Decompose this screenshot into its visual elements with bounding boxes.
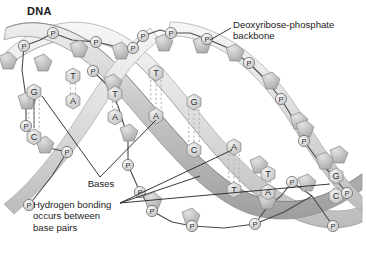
phosphate-group: P (275, 93, 286, 104)
phosphate-letter: P (289, 178, 294, 187)
phosphate-letter: P (330, 222, 335, 231)
base-letter-c: C (31, 132, 38, 142)
dna-diagram-figure: GCTATATAGCATTAGC PPPPPPPPPPPPPPPPPPPPPP … (0, 0, 366, 258)
phosphate-group: P (165, 27, 176, 38)
phosphate-group: P (122, 159, 133, 170)
base-letter-t: T (265, 169, 271, 179)
phosphate-letter: P (204, 35, 209, 44)
phosphate-letter: P (21, 42, 26, 51)
figure-title: DNA (27, 5, 52, 17)
phosphate-letter: P (90, 67, 95, 76)
base-letter-t: T (231, 185, 237, 195)
phosphate-group: P (186, 220, 197, 231)
phosphate-group: P (298, 135, 309, 146)
base-pair: TA (66, 68, 80, 109)
base-letter-a: A (153, 111, 159, 121)
phosphate-letter: P (64, 148, 69, 157)
phosphate-group: P (137, 30, 148, 41)
base-pair: AT (227, 139, 241, 198)
base-letter-t: T (153, 68, 159, 78)
label-backbone: Deoxyribose-phosphate backbone (233, 19, 334, 42)
base-letter-a: A (231, 142, 237, 152)
phosphate-letter: P (26, 201, 31, 210)
phosphate-group: P (90, 36, 101, 47)
phosphate-letter: P (93, 38, 98, 47)
base-letter-g: G (332, 171, 339, 181)
phosphate-letter: P (23, 122, 28, 131)
phosphate-group: P (47, 27, 58, 38)
base-letter-g: G (30, 87, 37, 97)
phosphate-letter: P (301, 137, 306, 146)
phosphate-letter: P (344, 189, 349, 198)
phosphate-group: P (341, 187, 352, 198)
phosphate-group: P (286, 176, 297, 187)
phosphate-group: P (87, 65, 98, 76)
phosphate-letter: P (149, 207, 154, 216)
base-pair: TA (108, 86, 122, 125)
phosphate-group: P (327, 220, 338, 231)
base-letter-t: T (70, 71, 76, 81)
phosphate-group: P (127, 42, 138, 53)
phosphate-letter: P (125, 161, 130, 170)
base-letter-t: T (112, 89, 118, 99)
phosphate-letter: P (252, 220, 257, 229)
phosphate-group: P (146, 205, 157, 216)
phosphate-group: P (61, 146, 72, 157)
phosphate-letter: P (189, 222, 194, 231)
phosphate-letter: P (168, 29, 173, 38)
phosphate-letter: P (50, 29, 55, 38)
phosphate-letter: P (278, 95, 283, 104)
base-letter-g: G (190, 97, 197, 107)
base-letter-a: A (265, 187, 271, 197)
phosphate-letter: P (130, 44, 135, 53)
label-hydrogen-bonding: Hydrogen bonding occurs between base pai… (33, 199, 111, 233)
phosphate-group: P (243, 57, 254, 68)
base-letter-a: A (70, 96, 76, 106)
base-letter-a: A (112, 112, 118, 122)
phosphate-group: P (18, 40, 29, 51)
label-bases: Bases (78, 178, 124, 189)
base-pair: TA (149, 65, 163, 124)
base-letter-c: C (191, 145, 198, 155)
phosphate-group: P (20, 120, 31, 131)
phosphate-letter: P (140, 32, 145, 41)
phosphate-group: P (249, 218, 260, 229)
base-letter-c: C (333, 191, 340, 201)
phosphate-letter: P (246, 59, 251, 68)
